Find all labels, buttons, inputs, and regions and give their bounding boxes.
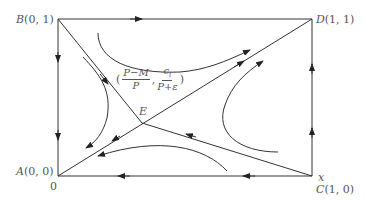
separatrix-A-D [58, 19, 312, 176]
point-B-label: B(0, 1) [16, 14, 54, 25]
point-C-label: C(1, 0) [316, 184, 354, 195]
phase-portrait-diagram [0, 0, 366, 203]
point-A-label: A(0, 0) [16, 166, 54, 177]
point-D-label: D(1, 1) [316, 14, 354, 25]
fraction-2: ci P+ε [157, 66, 177, 92]
separatrix-E-C [142, 123, 312, 176]
equilibrium-coordinates-label: ( P−M P , ci P+ε ) [116, 66, 184, 92]
origin-label: 0 [50, 181, 57, 192]
trajectory-left [83, 57, 108, 148]
trajectory-bottom [98, 146, 227, 171]
x-axis-label: x [318, 172, 324, 183]
point-E-label: E [139, 106, 147, 117]
trajectory-right [223, 61, 278, 152]
fraction-1: P−M P [122, 68, 149, 91]
